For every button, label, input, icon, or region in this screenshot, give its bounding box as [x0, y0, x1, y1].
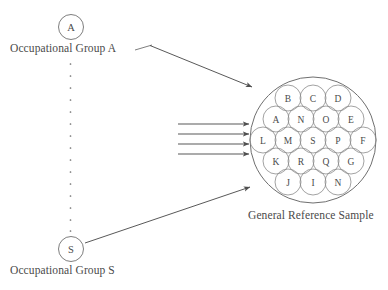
cell-letter: L — [260, 136, 266, 146]
cell-letter: Q — [323, 157, 330, 167]
arrow-bundle — [178, 124, 249, 154]
cell-letter: I — [311, 178, 314, 188]
reference-sample-label: General Reference Sample — [248, 209, 374, 222]
cell-letter: P — [335, 136, 340, 146]
cell-letter: E — [348, 115, 354, 125]
cell-letter: G — [348, 157, 355, 167]
cell-letter: K — [273, 157, 280, 167]
group-a-label: Occupational Group A — [10, 42, 117, 55]
cell-letter: C — [310, 94, 316, 104]
cell-row-4: J I N — [275, 169, 351, 195]
group-ellipsis — [70, 63, 72, 232]
reference-sample-cells: B C D A N O E L M — [250, 85, 376, 195]
cell-letter: N — [335, 178, 342, 188]
figure-canvas: A Occupational Group A S Occupational — [0, 0, 388, 290]
group-s-label: Occupational Group S — [10, 264, 115, 277]
arrow-group-s-to-sample — [85, 187, 250, 243]
cell-letter: S — [310, 136, 315, 146]
group-s-letter: S — [68, 244, 74, 255]
group-a-node: A — [59, 15, 84, 40]
cell-letter: F — [360, 136, 365, 146]
cell-row-1: A N O E — [263, 106, 364, 132]
cell-letter: B — [285, 94, 291, 104]
group-s-node: S — [59, 237, 84, 262]
cell-letter: D — [335, 94, 342, 104]
cell-row-3: K R Q G — [263, 148, 364, 174]
cell-letter: J — [286, 178, 290, 188]
cell-letter: R — [298, 157, 305, 167]
arrow-group-a-to-sample — [150, 46, 252, 88]
cell-row-0: B C D — [275, 85, 351, 111]
diagram-svg: A Occupational Group A S Occupational — [0, 0, 388, 290]
cell-letter: M — [284, 136, 293, 146]
cell-letter: A — [273, 115, 280, 125]
cell-letter: O — [323, 115, 330, 125]
cell-letter: N — [298, 115, 305, 125]
group-a-connector — [135, 45, 152, 50]
group-a-letter: A — [67, 22, 75, 33]
